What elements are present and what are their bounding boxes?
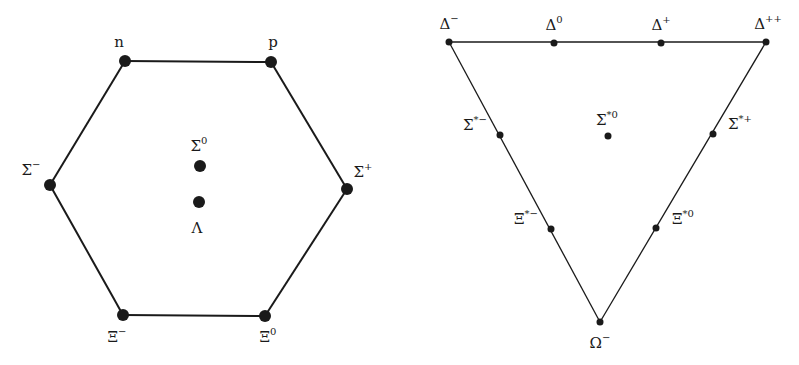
particle-label-omega-minus: Ω−: [590, 336, 611, 351]
particle-symbol: Δ: [439, 15, 450, 33]
particle-dot-sigma-zero: [194, 160, 206, 172]
particle-label-delta-plusplus: Δ++: [754, 17, 782, 32]
particle-label-xi-minus: Ξ−: [108, 330, 127, 345]
particle-charge: 0: [201, 135, 207, 146]
particle-charge: +: [662, 14, 670, 25]
particle-symbol: Σ: [463, 116, 474, 134]
particle-dot-sigma-minus: [44, 179, 56, 191]
particle-charge: 0: [556, 14, 562, 25]
particle-label-sigma-zero: Σ0: [191, 139, 208, 154]
particle-symbol: Σ: [354, 163, 365, 181]
particle-charge: ++: [765, 13, 782, 24]
particle-charge: −: [450, 13, 458, 24]
particle-label-sigma-star-minus: Σ*−: [463, 118, 487, 133]
particle-symbol: Σ: [596, 111, 607, 129]
particle-dot-sigma-plus: [341, 183, 353, 195]
particle-symbol: p: [268, 33, 278, 51]
edge-n-p: [125, 61, 271, 62]
edge-omega-minus-delta-minus: [449, 42, 600, 322]
particle-label-delta-plus: Δ+: [651, 18, 670, 33]
particle-label-p: p: [268, 35, 278, 50]
baryon-octet-hexagon: [44, 55, 353, 322]
edge-sigma-plus-xi-zero: [265, 189, 347, 316]
baryon-multiplet-figure: npΣ−Σ+Ξ−Ξ0Σ0Λ Δ−Δ0Δ+Δ++Σ*−Σ*0Σ*+Ξ*−Ξ*0Ω−: [0, 0, 799, 365]
particle-charge: *0: [607, 109, 618, 120]
particle-dot-omega-minus: [597, 319, 604, 326]
particle-label-n: n: [114, 35, 124, 50]
particle-label-sigma-minus: Σ−: [22, 163, 41, 178]
particle-charge: *+: [739, 113, 752, 124]
particle-dot-delta-plusplus: [763, 39, 770, 46]
particle-dot-xi-minus: [117, 309, 129, 321]
particle-label-xi-zero: Ξ0: [260, 330, 277, 345]
particle-charge: −: [118, 326, 126, 337]
particle-label-sigma-star-plus: Σ*+: [728, 117, 752, 132]
particle-label-lambda: Λ: [192, 221, 203, 236]
particle-symbol: Ξ: [514, 210, 525, 228]
particle-symbol: Δ: [651, 16, 662, 34]
particle-dot-lambda: [193, 196, 205, 208]
particle-charge: −: [602, 332, 610, 343]
particle-charge: *0: [683, 208, 694, 219]
particle-symbol: Σ: [191, 137, 202, 155]
edge-p-sigma-plus: [271, 62, 347, 189]
particle-label-delta-zero: Δ0: [545, 18, 562, 33]
particle-label-sigma-star-zero: Σ*0: [596, 113, 618, 128]
edge-sigma-minus-n: [50, 61, 125, 185]
particle-label-xi-star-zero: Ξ*0: [672, 212, 694, 227]
particle-dot-sigma-star-zero: [605, 133, 612, 140]
particle-label-delta-minus: Δ−: [439, 17, 458, 32]
baryon-decuplet-triangle: [446, 39, 770, 326]
particle-dot-xi-zero: [259, 310, 271, 322]
particle-dot-xi-star-minus: [548, 226, 555, 233]
particle-charge: *−: [525, 208, 538, 219]
particle-symbol: Ξ: [108, 328, 119, 346]
particle-dot-n: [119, 55, 131, 67]
particle-dot-sigma-star-plus: [710, 131, 717, 138]
particle-charge: 0: [270, 326, 276, 337]
particle-symbol: Ξ: [672, 210, 683, 228]
particle-dot-sigma-star-minus: [497, 132, 504, 139]
diagram-canvas: [0, 0, 799, 365]
particle-dot-p: [265, 56, 277, 68]
edge-delta-plusplus-omega-minus: [600, 42, 766, 322]
particle-symbol: Ξ: [260, 328, 271, 346]
particle-label-sigma-plus: Σ+: [354, 165, 373, 180]
particle-dot-xi-star-zero: [653, 225, 660, 232]
particle-symbol: Δ: [545, 16, 556, 34]
particle-symbol: Σ: [728, 115, 739, 133]
particle-dot-delta-plus: [658, 40, 665, 47]
particle-label-xi-star-minus: Ξ*−: [514, 212, 538, 227]
particle-charge: *−: [474, 114, 487, 125]
particle-symbol: Δ: [754, 15, 765, 33]
particle-charge: −: [32, 159, 40, 170]
particle-symbol: n: [114, 33, 124, 51]
edge-xi-zero-xi-minus: [123, 315, 265, 316]
particle-symbol: Λ: [192, 219, 203, 237]
particle-symbol: Ω: [590, 334, 602, 352]
particle-charge: +: [364, 161, 372, 172]
particle-dot-delta-zero: [551, 40, 558, 47]
edge-xi-minus-sigma-minus: [50, 185, 123, 315]
particle-dot-delta-minus: [446, 39, 453, 46]
particle-symbol: Σ: [22, 161, 33, 179]
